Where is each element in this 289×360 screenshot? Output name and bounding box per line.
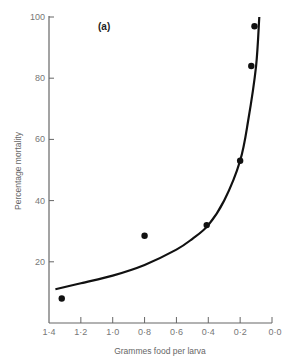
x-tick-label: 1·4 <box>42 327 55 337</box>
x-tick-label: 1·2 <box>74 327 87 337</box>
y-tick-label: 80 <box>35 73 45 83</box>
data-point <box>141 233 147 239</box>
data-point <box>59 295 65 301</box>
data-point <box>237 158 243 164</box>
x-tick-label: 0·4 <box>202 327 215 337</box>
x-tick-label: 0·0 <box>268 327 281 337</box>
x-axis-title: Grammes food per larva <box>114 346 206 356</box>
data-point <box>248 63 254 69</box>
y-tick-label: 100 <box>30 12 45 22</box>
x-tick-label: 0·6 <box>170 327 183 337</box>
chart: 204060801001·41·21·00·80·60·40·20·0 (a) … <box>0 0 289 360</box>
data-point <box>203 222 209 228</box>
data-point <box>251 23 257 29</box>
x-tick-label: 0·2 <box>234 327 247 337</box>
x-tick-label: 1·0 <box>106 327 119 337</box>
y-axis-title: Percentage mortality <box>13 131 23 210</box>
fitted-curve <box>55 17 259 289</box>
axes <box>49 16 272 323</box>
ticks: 204060801001·41·21·00·80·60·40·20·0 <box>30 12 282 337</box>
y-tick-label: 40 <box>35 196 45 206</box>
panel-label: (a) <box>98 21 110 32</box>
y-tick-label: 60 <box>35 134 45 144</box>
x-tick-label: 0·8 <box>138 327 151 337</box>
y-tick-label: 20 <box>35 257 45 267</box>
